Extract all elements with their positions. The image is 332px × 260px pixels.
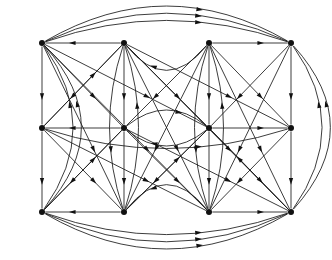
edge-arrowhead-icon [40,178,44,185]
edge-arrowhead-icon [109,146,114,153]
graph-node [121,209,127,215]
edge-arrowhead-icon [225,93,233,100]
graph-edge [210,46,223,208]
graph-node [39,125,45,131]
graph-node [206,125,212,131]
edge-arrowhead-icon [257,210,264,214]
edge-arrowhead-icon [257,41,264,45]
graph-node [39,209,45,215]
edge-arrowhead-icon [90,146,97,154]
edge-arrowhead-icon [236,146,243,154]
edge-arrowhead-icon [69,41,76,45]
edge-arrowhead-icon [207,93,211,100]
graph-edge [46,214,288,249]
graph-canvas [0,0,332,260]
graph-edge [109,46,122,208]
edge-arrowhead-icon [257,146,264,154]
directed-graph-figure [0,0,332,260]
edge-arrowhead-icon [40,93,44,100]
edge-arrowhead-icon [316,101,321,108]
graph-edge [127,130,287,211]
edge-arrowhead-icon [195,20,202,25]
graph-edge [45,130,205,211]
edge-arrowhead-icon [135,102,140,109]
edge-arrowhead-icon [69,126,76,130]
edge-arrowhead-icon [74,100,80,107]
edge-arrowhead-icon [142,177,150,184]
edge-arrowhead-icon [196,243,203,248]
graph-edge [46,213,288,234]
graph-edge [45,46,82,208]
edge-arrowhead-icon [220,102,225,109]
graph-edge [46,129,288,148]
graph-node [288,209,294,215]
graph-node [288,40,294,46]
edge-arrowhead-icon [122,178,126,185]
graph-edge [45,45,205,127]
edge-arrowhead-icon [69,210,76,214]
edge-arrowhead-icon [323,100,329,107]
graph-edge [194,46,207,208]
edge-arrowhead-icon [289,178,293,185]
graph-node [121,125,127,131]
graph-edge [46,13,288,41]
edge-arrowhead-icon [257,126,264,130]
graph-node [206,40,212,46]
edge-arrowhead-icon [122,93,126,100]
graph-edge [294,46,331,208]
edge-arrowhead-icon [207,178,211,185]
graph-edge [293,46,322,208]
edge-arrowhead-icon [196,7,203,12]
edge-arrowhead-icon [289,93,293,100]
graph-node [206,209,212,215]
graph-node [39,40,45,46]
edge-arrowhead-icon [195,230,202,235]
graph-edge [46,214,288,242]
graph-edge [46,6,288,41]
edge-arrowhead-icon [195,237,202,242]
edge-layer [42,6,330,249]
graph-edge [125,46,138,208]
edge-arrowhead-icon [195,13,202,18]
graph-node [121,40,127,46]
graph-edge [127,45,287,127]
graph-edge [44,46,123,208]
graph-node [288,125,294,131]
graph-edge [46,20,288,41]
